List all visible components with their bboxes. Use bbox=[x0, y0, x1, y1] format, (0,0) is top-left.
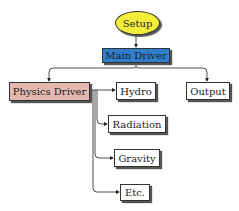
output-node: Output bbox=[186, 82, 230, 100]
main-driver-label: Main Driver bbox=[105, 50, 166, 61]
hydro-node: Hydro bbox=[116, 82, 156, 100]
main-driver-node: Main Driver bbox=[102, 48, 170, 63]
gravity-label: Gravity bbox=[118, 153, 155, 164]
physics-driver-node: Physics Driver bbox=[9, 82, 90, 101]
physics-driver-label: Physics Driver bbox=[13, 86, 86, 97]
radiation-label: Radiation bbox=[113, 119, 162, 130]
connector-lines bbox=[0, 0, 239, 211]
etc-node: Etc. bbox=[120, 184, 150, 201]
setup-node: Setup bbox=[115, 11, 160, 35]
etc-label: Etc. bbox=[125, 187, 145, 198]
setup-label: Setup bbox=[123, 18, 153, 29]
gravity-node: Gravity bbox=[114, 149, 160, 167]
hydro-label: Hydro bbox=[120, 86, 152, 97]
output-label: Output bbox=[190, 86, 226, 97]
radiation-node: Radiation bbox=[108, 115, 166, 133]
